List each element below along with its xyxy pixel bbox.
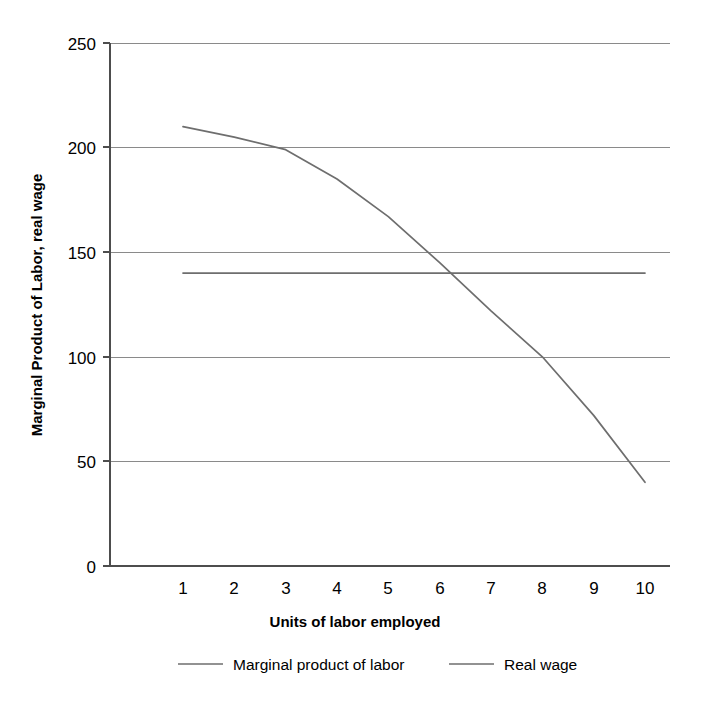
line-chart: 250 200 150 100 50 0 Marginal Product of… <box>0 0 701 703</box>
y-tick-label-150: 150 <box>68 244 96 263</box>
x-tick-label-2: 2 <box>229 579 238 598</box>
x-tick-label-5: 5 <box>383 579 392 598</box>
x-tick-label-10: 10 <box>636 579 655 598</box>
y-tick-label-50: 50 <box>77 453 96 472</box>
chart-container: 250 200 150 100 50 0 Marginal Product of… <box>0 0 701 703</box>
x-tick-label-1: 1 <box>178 579 187 598</box>
x-tick-label-3: 3 <box>281 579 290 598</box>
x-tick-label-4: 4 <box>332 579 341 598</box>
x-tick-label-9: 9 <box>589 579 598 598</box>
legend-label-marginal-product-of-labor: Marginal product of labor <box>233 656 404 673</box>
y-axis-title: Marginal Product of Labor, real wage <box>28 174 45 437</box>
y-tick-label-0: 0 <box>87 558 96 577</box>
y-tick-label-100: 100 <box>68 349 96 368</box>
x-axis-title: Units of labor employed <box>270 613 441 630</box>
y-tick-label-250: 250 <box>68 35 96 54</box>
legend: Marginal product of labor Real wage <box>178 656 577 673</box>
x-tick-label-6: 6 <box>435 579 444 598</box>
x-tick-label-8: 8 <box>537 579 546 598</box>
legend-label-real-wage: Real wage <box>504 656 577 673</box>
x-tick-label-7: 7 <box>486 579 495 598</box>
y-tick-label-200: 200 <box>68 139 96 158</box>
